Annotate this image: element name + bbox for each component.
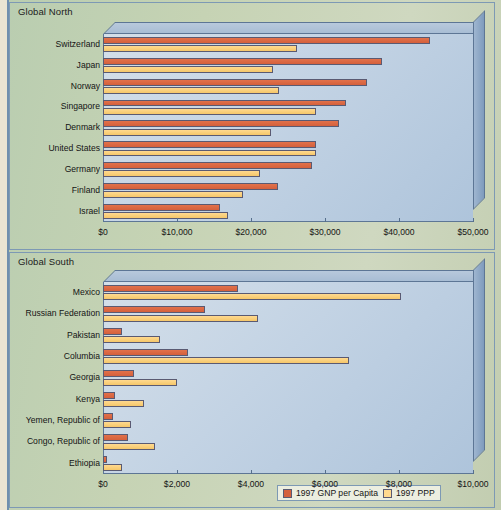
x-axis-tick-label: $50,000 [457,227,488,237]
x-axis-tick-label: $10,000 [161,227,192,237]
bar-ppp [103,66,273,73]
bar-gnp [103,100,346,107]
bar-gnp [103,141,316,148]
legend-label: 1997 PPP [396,488,435,498]
legend-swatch-icon [383,489,392,498]
bar-gnp [103,120,339,127]
x-axis-tick-label: $10,000 [457,479,488,489]
chart-area-global-south [103,270,485,474]
x-axis-tick [251,470,252,474]
category-label: Denmark [65,123,100,132]
bar-ppp [103,212,228,219]
chart-title-global-north: Global North [18,6,73,17]
category-label: Columbia [64,352,100,361]
category-label: Pakistan [67,331,100,340]
figure-root: Global North SwitzerlandJapanNorwaySinga… [0,0,501,510]
x-axis-tick-label: $20,000 [235,227,266,237]
category-label: Yemen, Republic of [26,416,100,425]
category-label: Japan [77,61,100,70]
legend-item[interactable]: 1997 GNP per Capita [283,488,378,498]
x-axis-tick-label: $0 [98,479,108,489]
bar-ppp [103,45,297,52]
chart-panel-global-north: Global North SwitzerlandJapanNorwaySinga… [9,2,495,250]
x-axis-tick-label: $6,000 [312,479,338,489]
x-axis-tick [177,470,178,474]
bar-gnp [103,456,107,463]
x-axis-tick-label: $40,000 [383,227,414,237]
x-axis-tick-label: $4,000 [238,479,264,489]
bar-gnp [103,58,382,65]
chart-box-right-face [473,258,485,462]
bar-gnp [103,413,113,420]
bar-gnp [103,370,134,377]
chart-title-global-south: Global South [18,256,74,267]
bar-gnp [103,204,220,211]
bar-ppp [103,379,177,386]
category-label: Russian Federation [25,309,100,318]
bar-ppp [103,170,260,177]
category-label: Finland [72,186,100,195]
bar-gnp [103,328,122,335]
bar-ppp [103,150,316,157]
bar-ppp [103,129,271,136]
legend-label: 1997 GNP per Capita [296,488,378,498]
category-label: Norway [71,82,100,91]
bar-ppp [103,87,279,94]
bar-ppp [103,400,144,407]
x-axis-tick [325,218,326,222]
category-label: Kenya [76,395,100,404]
x-axis-tick-label: $2,000 [164,479,190,489]
legend-item[interactable]: 1997 PPP [383,488,435,498]
chart-area-global-north [103,22,485,222]
bar-gnp [103,285,238,292]
bar-gnp [103,162,312,169]
chart-panel-global-south: Global South 1997 GNP per Capita1997 PPP… [9,252,495,508]
category-label: Switzerland [56,40,100,49]
chart-box-right-face [473,10,485,210]
bar-gnp [103,349,188,356]
bar-ppp [103,357,349,364]
bar-gnp [103,306,205,313]
category-label: Georgia [69,373,100,382]
x-axis-tick-label: $30,000 [309,227,340,237]
chart-legend: 1997 GNP per Capita1997 PPP [277,485,441,501]
bar-ppp [103,336,160,343]
bar-ppp [103,443,155,450]
category-label: Germany [65,165,100,174]
bar-gnp [103,37,430,44]
bar-gnp [103,183,278,190]
bar-gnp [103,79,367,86]
x-axis-tick-label: $0 [98,227,108,237]
chart-box-top-face [103,22,485,34]
bar-ppp [103,191,243,198]
x-axis-tick [473,218,474,222]
bar-gnp [103,434,128,441]
page-left-margin [0,0,7,510]
category-label: Singapore [61,102,100,111]
bar-ppp [103,421,131,428]
x-axis-tick [399,218,400,222]
chart-box-top-face [103,270,485,282]
x-axis-tick [177,218,178,222]
x-axis-tick [251,218,252,222]
category-label: Mexico [73,288,100,297]
bar-ppp [103,464,122,471]
x-axis-tick [399,470,400,474]
category-label: Israel [79,207,100,216]
bar-ppp [103,315,258,322]
bar-ppp [103,108,316,115]
bar-ppp [103,293,401,300]
category-label: United States [48,144,100,153]
bar-gnp [103,392,115,399]
x-axis-tick-label: $8,000 [386,479,412,489]
x-axis-tick [325,470,326,474]
x-axis-tick [473,470,474,474]
category-label: Congo, Republic of [27,437,100,446]
legend-swatch-icon [283,489,292,498]
category-label: Ethiopia [69,459,100,468]
